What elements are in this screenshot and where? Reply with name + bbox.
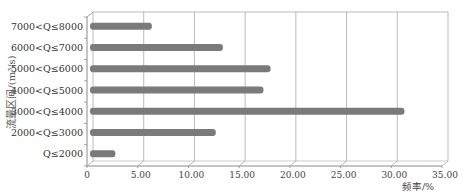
bar	[90, 108, 404, 115]
x-tick-label: 0	[84, 170, 90, 180]
bar	[90, 23, 152, 30]
x-tick-label: 15.00	[229, 170, 255, 180]
category-label: 5000<Q≤6000	[11, 63, 83, 74]
category-label: Q≤2000	[43, 148, 83, 159]
bar	[90, 65, 271, 72]
category-label: 7000<Q≤8000	[11, 21, 83, 32]
bar-chart: Q≤20002000<Q≤30003000<Q≤40004000<Q≤50005…	[0, 0, 463, 196]
bar	[90, 129, 216, 136]
y-axis-title: 流量区间/(m³/s)	[5, 55, 17, 128]
x-tick-label: 20.00	[280, 170, 306, 180]
category-label: 4000<Q≤5000	[11, 85, 83, 96]
x-tick-label: 5.00	[131, 170, 151, 180]
x-tick-label: 10.00	[179, 170, 205, 180]
bar	[90, 44, 223, 51]
category-label: 6000<Q≤7000	[11, 42, 83, 53]
x-tick-label: 30.00	[381, 170, 407, 180]
x-tick-label: 35.00	[432, 170, 458, 180]
bar	[90, 150, 115, 157]
category-label: 3000<Q≤4000	[11, 106, 83, 117]
x-tick-labels: 05.0010.0015.0020.0025.0030.0035.00	[84, 170, 458, 180]
x-axis-title: 频率/%	[402, 181, 434, 192]
bars	[90, 23, 404, 158]
category-labels: Q≤20002000<Q≤30003000<Q≤40004000<Q≤50005…	[11, 21, 83, 160]
x-tick-label: 25.00	[331, 170, 357, 180]
bar	[90, 87, 263, 94]
category-label: 2000<Q≤3000	[11, 127, 83, 138]
